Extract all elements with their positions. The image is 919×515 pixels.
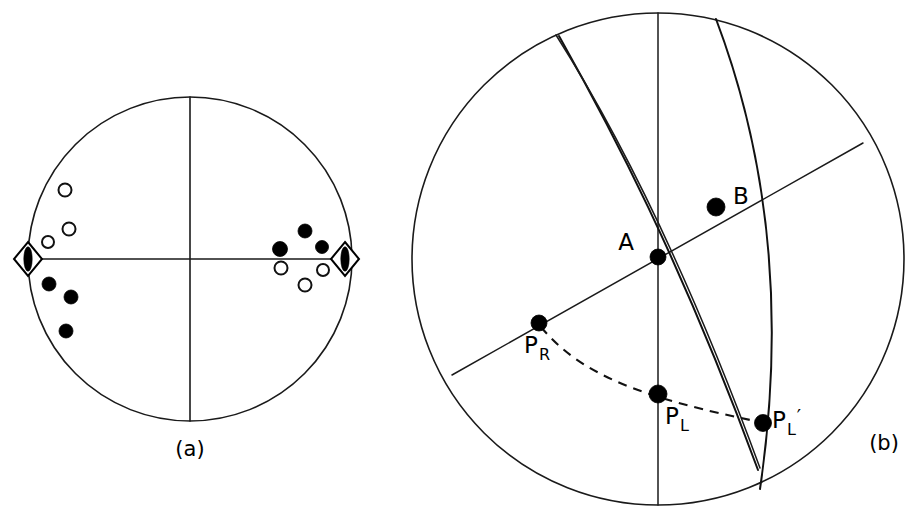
- stereonet-figure: (a) ABPRPLPL′ (b): [0, 0, 919, 515]
- panel-a-marker-group: [14, 184, 359, 339]
- dilatational-marker: [63, 223, 76, 236]
- point-label-A: A: [618, 229, 634, 255]
- figure-root: (a) ABPRPLPL′ (b): [0, 0, 919, 515]
- axis-diamond-marker: [14, 242, 42, 276]
- compressional-marker: [59, 324, 73, 338]
- point-label-subscript: R: [539, 345, 550, 364]
- panel-b: ABPRPLPL′ (b): [412, 13, 904, 505]
- point-label-B: B: [733, 183, 749, 209]
- point-marker-PL: [755, 415, 772, 432]
- point-marker-PR: [531, 315, 547, 331]
- point-label-PR: PR: [524, 332, 550, 364]
- axis-diamond-marker: [331, 242, 359, 276]
- dilatational-marker: [317, 264, 329, 276]
- compressional-marker: [42, 277, 56, 291]
- point-label-subscript: L: [680, 416, 689, 435]
- panel-b-caption: (b): [869, 431, 899, 455]
- point-label-PL: PL′: [772, 405, 801, 439]
- compressional-marker: [298, 224, 312, 238]
- panel-a-caption: (a): [175, 437, 204, 461]
- compressional-marker: [273, 242, 288, 257]
- compressional-marker: [316, 241, 329, 254]
- compressional-marker: [64, 290, 78, 304]
- axis-diamond-core: [24, 247, 32, 271]
- point-label-subscript: L: [787, 420, 796, 439]
- dilatational-marker: [275, 262, 288, 275]
- point-marker-PL: [649, 385, 667, 403]
- panel-b-dashed-arc: [541, 327, 765, 423]
- dilatational-marker: [42, 236, 54, 248]
- point-label-prime: ′: [797, 405, 801, 427]
- dilatational-marker: [299, 279, 312, 292]
- point-label-PL: PL: [665, 403, 689, 435]
- axis-diamond-core: [341, 247, 349, 271]
- point-marker-B: [707, 198, 725, 216]
- panel-a: (a): [14, 97, 359, 461]
- point-marker-A: [650, 249, 666, 265]
- dilatational-marker: [59, 184, 72, 197]
